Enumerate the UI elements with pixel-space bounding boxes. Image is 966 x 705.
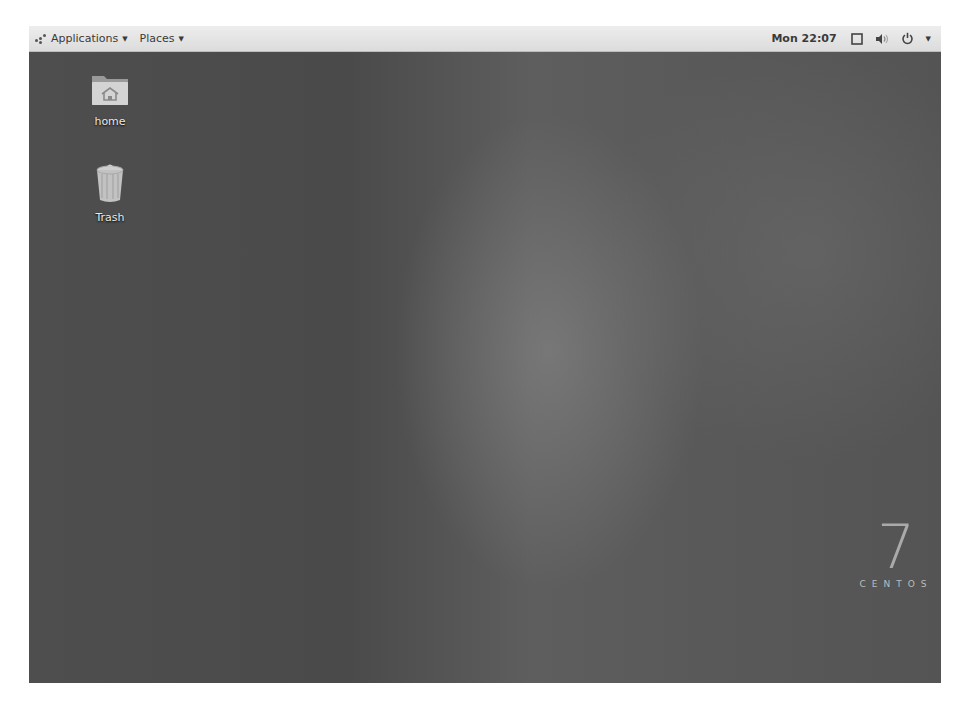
clock[interactable]: Mon 22:07 <box>771 32 836 45</box>
centos-logo: 7 CENTOS <box>851 517 941 589</box>
desktop-icon-label: Trash <box>75 211 145 224</box>
chevron-down-icon: ▼ <box>122 35 127 43</box>
volume-icon[interactable] <box>875 33 889 45</box>
logo-version: 7 <box>851 517 941 577</box>
trash-icon <box>88 162 132 204</box>
chevron-down-icon[interactable]: ▼ <box>926 35 931 43</box>
logo-name: CENTOS <box>851 579 941 589</box>
system-tray[interactable]: ▼ <box>851 32 931 45</box>
places-menu[interactable]: Places ▼ <box>134 26 190 51</box>
desktop-icon-home[interactable]: home <box>75 72 145 128</box>
chevron-down-icon: ▼ <box>179 35 184 43</box>
desktop-icon-trash[interactable]: Trash <box>75 162 145 224</box>
desktop[interactable]: home Trash 7 CENTOS <box>29 52 941 683</box>
applications-label: Applications <box>51 32 118 45</box>
places-label: Places <box>140 32 175 45</box>
home-folder-icon <box>88 72 132 108</box>
applications-menu[interactable]: Applications ▼ <box>29 26 134 51</box>
power-icon[interactable] <box>901 32 914 45</box>
screen: Applications ▼ Places ▼ Mon 22:07 ▼ <box>29 26 941 683</box>
top-panel: Applications ▼ Places ▼ Mon 22:07 ▼ <box>29 26 941 52</box>
window-switcher-icon[interactable] <box>851 33 863 45</box>
applications-icon <box>35 34 47 44</box>
desktop-icon-label: home <box>75 115 145 128</box>
